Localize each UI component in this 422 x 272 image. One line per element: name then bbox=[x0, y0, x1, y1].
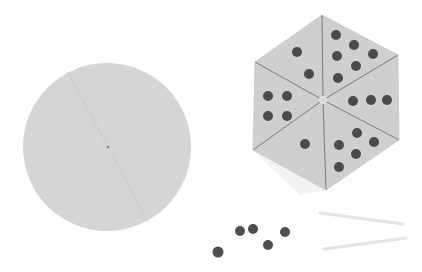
scene bbox=[0, 0, 422, 272]
sticks[interactable] bbox=[320, 213, 406, 249]
loose-counters[interactable] bbox=[213, 224, 291, 258]
blank-spinner-disc bbox=[23, 63, 191, 231]
hexagon-spinner bbox=[253, 15, 399, 195]
